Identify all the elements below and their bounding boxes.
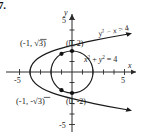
figure-page: 7. (0, 0, 150, 138)
lower-label-x: -1, (19, 96, 30, 106)
point-dot-upper-intersection (59, 52, 63, 56)
y-axis-label: y (63, 8, 68, 17)
coordinate-plane-figure: -5 5 5 -5 x y y2 − x = 4 x2 + y2 = 4 (-1… (0, 0, 150, 138)
svg-text:(-1, -√3): (-1, -√3) (16, 96, 45, 106)
point-label-lower-intersection: (-1, -√3) (16, 96, 50, 106)
x-tick-label-5: 5 (121, 76, 125, 85)
x-axis-arrow (131, 70, 136, 75)
svg-text:x2 + y2 = 4: x2 + y2 = 4 (83, 54, 117, 64)
parabola-upper-arrow (126, 32, 132, 37)
y-axis-arrow (70, 14, 75, 19)
point-dot-top (70, 49, 74, 53)
circle-equation-label: x2 + y2 = 4 (83, 54, 117, 64)
parabola-equation-label: y2 − x = 4 (97, 22, 130, 38)
parabola-lower-arrow (126, 107, 132, 112)
svg-text:y2 − x = 4: y2 − x = 4 (97, 22, 130, 38)
circle-eq-mid: + (90, 55, 99, 64)
point-dot-lower-intersection (59, 88, 63, 92)
point-label-top: (0, 2) (66, 39, 84, 48)
x-tick-label-neg5: -5 (14, 76, 21, 85)
y-tick-label-neg5: -5 (59, 121, 66, 130)
point-label-bottom: (0, -2) (66, 97, 86, 106)
point-label-upper-intersection: (-1, √3) (20, 38, 47, 48)
upper-label-x: -1, (23, 38, 34, 48)
x-axis-label: x (127, 61, 132, 70)
circle-eq-tail: = 4 (105, 55, 118, 64)
point-dot-bottom (70, 91, 74, 95)
y-tick-label-5: 5 (62, 16, 66, 25)
